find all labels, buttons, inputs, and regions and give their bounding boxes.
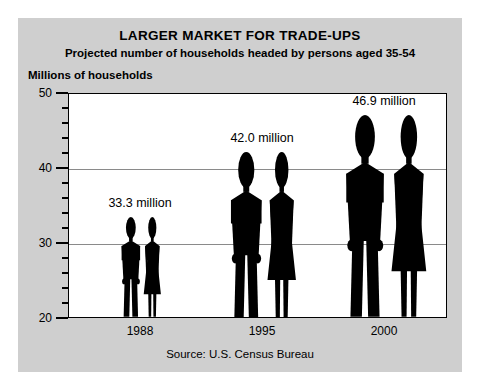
x-axis-label-2000: 2000 [371,324,398,338]
pictogram-group-2000 [339,115,432,317]
value-label-1995: 42.0 million [230,131,293,145]
chart-title: LARGER MARKET FOR TRADE-UPS [18,28,462,43]
pictogram-group-1988 [118,217,164,317]
value-label-1988: 33.3 million [108,196,171,210]
pictogram-group-1995 [225,152,301,317]
female-figure-icon [263,152,300,317]
y-axis-label-40: 40 [39,161,52,175]
y-tick-20 [56,317,68,319]
female-figure-icon [141,217,164,317]
male-figure-icon [339,115,391,317]
y-axis-label-30: 30 [39,236,52,250]
female-figure-icon [386,115,432,317]
male-figure-icon [225,152,268,317]
y-tick-50 [56,92,68,94]
x-axis-label-1995: 1995 [249,324,276,338]
y-axis-title: Millions of households [28,69,153,81]
x-axis-label-1988: 1988 [127,324,154,338]
source-note: Source: U.S. Census Bureau [18,348,462,360]
y-axis: 50403020 [18,93,68,319]
y-tick-40 [56,167,68,169]
value-label-2000: 46.9 million [352,94,415,108]
y-tick-30 [56,242,68,244]
male-figure-icon [118,217,144,317]
y-axis-label-20: 20 [39,311,52,325]
y-axis-label-50: 50 [39,86,52,100]
chart-subtitle: Projected number of households headed by… [18,47,462,59]
chart-panel: LARGER MARKET FOR TRADE-UPS Projected nu… [18,18,462,372]
